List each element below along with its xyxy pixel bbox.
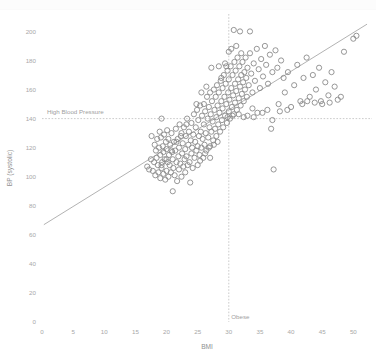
y-tick-label: 180 [26, 57, 37, 64]
data-point [208, 155, 213, 160]
data-point [192, 155, 197, 160]
data-point [316, 65, 321, 70]
data-point [233, 68, 238, 73]
data-point [247, 51, 252, 56]
data-point [199, 90, 204, 95]
data-point [351, 36, 356, 41]
data-point [249, 71, 254, 76]
data-point [153, 173, 158, 178]
data-point [255, 110, 260, 115]
data-point [312, 100, 317, 105]
y-axis-ticks: 020406080100120140160180200 [26, 28, 37, 326]
x-tick-label: 5 [71, 328, 75, 335]
data-point [329, 70, 334, 75]
trend-line [44, 24, 367, 224]
data-point [196, 117, 201, 122]
data-point [170, 189, 175, 194]
data-point [256, 67, 261, 72]
data-point [183, 170, 188, 175]
data-point [209, 99, 214, 104]
x-tick-label: 35 [256, 328, 263, 335]
data-point [161, 171, 166, 176]
data-point [278, 58, 283, 63]
data-point [172, 173, 177, 178]
data-point [301, 75, 306, 80]
data-point [262, 43, 267, 48]
data-point [305, 99, 310, 104]
data-point [242, 87, 247, 92]
data-point [270, 117, 275, 122]
data-point [232, 100, 237, 105]
reference-lines [42, 14, 372, 322]
data-point [270, 70, 275, 75]
data-point [206, 104, 211, 109]
data-point [191, 132, 196, 137]
data-point [271, 167, 276, 172]
data-point [251, 115, 256, 120]
y-tick-label: 60 [29, 231, 36, 238]
y-tick-label: 200 [26, 28, 37, 35]
data-point [252, 78, 257, 83]
data-point [260, 74, 265, 79]
axis-titles: BMIBP (systolic) [6, 150, 213, 350]
data-point [214, 133, 219, 138]
data-point [234, 88, 239, 93]
data-point [282, 90, 287, 95]
data-point [171, 165, 176, 170]
data-point [269, 126, 274, 131]
y-tick-label: 100 [26, 173, 37, 180]
data-point [231, 27, 236, 32]
data-point [332, 84, 337, 89]
data-point [251, 61, 256, 66]
data-point [234, 43, 239, 48]
x-tick-label: 20 [163, 328, 170, 335]
x-tick-label: 0 [40, 328, 44, 335]
scatter-chart: 05101520253035404550 0204060801001201401… [0, 0, 376, 364]
refline-label-obese: Obese [231, 313, 250, 320]
data-point [341, 49, 346, 54]
y-tick-label: 0 [33, 318, 37, 325]
data-point [229, 85, 234, 90]
data-point [173, 126, 178, 131]
data-point [310, 72, 315, 77]
data-point [220, 106, 225, 111]
y-tick-label: 160 [26, 86, 37, 93]
data-point [149, 133, 154, 138]
data-point [176, 145, 181, 150]
data-point [153, 148, 158, 153]
data-point [276, 101, 281, 106]
y-tick-label: 40 [29, 260, 36, 267]
data-point [221, 125, 226, 130]
data-point [260, 110, 265, 115]
data-point [265, 107, 270, 112]
x-tick-label: 30 [225, 328, 232, 335]
data-point [158, 152, 163, 157]
data-point [326, 93, 331, 98]
data-point [190, 165, 195, 170]
data-point [313, 87, 318, 92]
data-point [338, 94, 343, 99]
data-point [259, 56, 264, 61]
data-point [198, 129, 203, 134]
data-point [216, 64, 221, 69]
data-point [198, 158, 203, 163]
data-point [275, 65, 280, 70]
data-point [250, 106, 255, 111]
data-point [235, 55, 240, 60]
data-point [206, 135, 211, 140]
x-axis-title: BMI [201, 343, 213, 350]
y-tick-label: 80 [29, 202, 36, 209]
data-point [264, 62, 269, 67]
data-point [239, 72, 244, 77]
data-point [239, 51, 244, 56]
data-point [208, 112, 213, 117]
y-tick-label: 140 [26, 115, 37, 122]
x-tick-label: 25 [194, 328, 201, 335]
data-point [243, 55, 248, 60]
x-tick-label: 40 [288, 328, 295, 335]
data-point [245, 65, 250, 70]
data-point [200, 136, 205, 141]
data-point [292, 83, 297, 88]
data-point [254, 46, 259, 51]
data-point [295, 62, 300, 67]
